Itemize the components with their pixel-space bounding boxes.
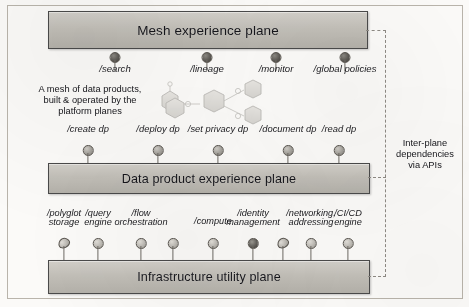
endpoint-label-line-2: engine <box>84 217 112 227</box>
endpoint-label-line-1: /networking, <box>286 208 336 218</box>
inter-plane-dependencies-note: Inter-plane dependencies via APIs <box>388 138 462 172</box>
plane-data-product-experience-label: Data product experience plane <box>122 172 296 186</box>
endpoint-label-line-2: storage <box>49 217 80 227</box>
endpoint-label: /search <box>99 63 130 74</box>
endpoint-label-line-2: orchestration <box>114 217 167 227</box>
plane-mesh-experience-label: Mesh experience plane <box>137 23 279 38</box>
plane-data-product-experience[interactable]: Data product experience plane <box>48 163 370 194</box>
figure-canvas: Mesh experience plane /search /lineage /… <box>0 0 469 307</box>
mesh-note-line-3: platform planes <box>34 106 146 117</box>
inter-plane-connector-branch-data-product <box>368 177 386 178</box>
endpoint-label: /document dp <box>260 123 317 134</box>
endpoint-label-line-1: /flow <box>132 208 151 218</box>
api-note-line-3: via APIs <box>388 160 462 171</box>
inter-plane-connector-branch-infrastructure <box>368 276 386 277</box>
endpoint-label: /deploy dp <box>136 123 179 134</box>
endpoint-label-line-1: /identity <box>237 208 269 218</box>
endpoint-label-line-2: management <box>226 217 280 227</box>
inter-plane-connector-line <box>385 30 386 277</box>
endpoint-label: /read dp <box>322 123 356 134</box>
endpoint-label: /flow orchestration <box>114 209 167 228</box>
plane-infrastructure-utility[interactable]: Infrastructure utility plane <box>48 260 370 294</box>
endpoint-label: /lineage <box>190 63 224 74</box>
endpoint-label-line-1: /query <box>85 208 111 218</box>
api-note-line-2: dependencies <box>388 149 462 160</box>
hexagon-mesh-graphic-icon <box>148 78 276 128</box>
endpoint-label: /CI/CD engine <box>334 209 362 228</box>
endpoint-label: /query engine <box>84 209 112 228</box>
inter-plane-connector-branch-mesh <box>366 30 386 31</box>
endpoint-label-line-1: /polyglot <box>47 208 81 218</box>
endpoint-label: /polyglot storage <box>47 209 81 228</box>
mesh-note: A mesh of data products, built & operate… <box>34 84 146 117</box>
endpoint-label: /identity management <box>226 209 280 228</box>
endpoint-label-line-1: /CI/CD <box>334 208 362 218</box>
endpoint-label: /create dp <box>67 123 109 134</box>
plane-mesh-experience[interactable]: Mesh experience plane <box>48 11 368 49</box>
mesh-note-line-1: A mesh of data products, <box>34 84 146 95</box>
endpoint-label: /set privacy dp <box>188 123 248 134</box>
plane-infrastructure-utility-label: Infrastructure utility plane <box>137 270 281 284</box>
mesh-note-line-2: built & operated by the <box>34 95 146 106</box>
endpoint-label-line-2: engine <box>334 217 362 227</box>
api-note-line-1: Inter-plane <box>388 138 462 149</box>
endpoint-label: /global policies <box>314 63 377 74</box>
endpoint-label: /networking, addressing <box>286 209 336 228</box>
endpoint-label-line-2: addressing <box>289 217 334 227</box>
endpoint-label: /monitor <box>259 63 294 74</box>
